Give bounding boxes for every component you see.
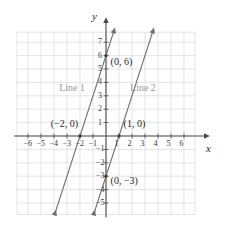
y-tick-label: 5 — [98, 65, 102, 73]
x-tick-label: −5 — [37, 140, 46, 148]
y-tick-label: −2 — [96, 159, 105, 167]
point-label: (0, −3) — [111, 176, 138, 186]
x-tick-label: 3 — [141, 140, 145, 148]
y-tick-label: 7 — [98, 38, 102, 46]
x-tick-label: −4 — [50, 140, 59, 148]
x-tick-label: 4 — [154, 140, 158, 148]
x-axis-label: x — [206, 143, 211, 154]
y-tick-label: −3 — [96, 172, 105, 180]
y-tick-label: −1 — [96, 145, 105, 153]
point-label: (1, 0) — [124, 119, 146, 129]
series-label-2: Line 2 — [130, 83, 156, 93]
x-tick-label: 1 — [115, 140, 119, 148]
axes — [14, 22, 205, 217]
x-tick-label: 5 — [167, 140, 171, 148]
y-tick-label: −5 — [96, 199, 105, 207]
y-tick-label: 2 — [98, 105, 102, 113]
coordinate-plane-figure: −6−5−4−3−2−11234567654321−1−2−3−4−5 x y … — [0, 0, 225, 232]
x-tick-label: 6 — [180, 140, 184, 148]
y-tick-label: 6 — [98, 52, 102, 60]
y-tick-label: 4 — [98, 78, 102, 86]
series-label-1: Line 1 — [59, 83, 85, 93]
x-tick-label: 2 — [128, 140, 132, 148]
x-tick-label: −3 — [63, 140, 72, 148]
y-axis-label: y — [92, 11, 97, 22]
y-tick-label: 1 — [98, 119, 102, 127]
x-tick-label: −6 — [24, 140, 33, 148]
graph-canvas — [0, 0, 225, 232]
y-tick-label: 3 — [98, 92, 102, 100]
point-label: (−2, 0) — [51, 119, 78, 129]
y-tick-label: −4 — [96, 186, 105, 194]
x-tick-label: −2 — [76, 140, 85, 148]
point-label: (0, 6) — [111, 57, 133, 67]
